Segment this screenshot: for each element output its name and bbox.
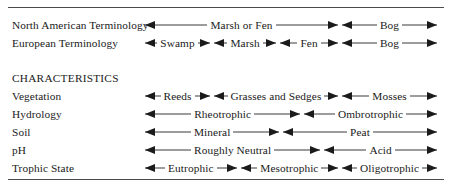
segment-caption: Roughly Neutral (191, 141, 274, 159)
arrow-left-icon (145, 92, 155, 100)
gradient-segment-acid: Acid (324, 141, 437, 159)
gradient-segment-bog: Bog (342, 34, 437, 52)
gradient-segment-mineral: Mineral (145, 123, 279, 141)
segment-caption: Bog (377, 16, 402, 34)
segment-caption: Peat (347, 123, 373, 141)
table-row: Vegetation ReedsGrasses and SedgesMosses (0, 87, 452, 105)
section-heading-characteristics: CHARACTERISTICS (12, 69, 119, 87)
bottom-rule (8, 179, 444, 180)
arrow-right-icon (328, 92, 338, 100)
gradient-segment-bog: Bog (342, 16, 437, 34)
arrow-right-icon (427, 39, 437, 47)
arrow-right-icon (269, 128, 279, 136)
gradient-track-trophic-state: EutrophicMesotrophicOligotrophic (145, 159, 437, 177)
table-row: Soil MineralPeat (0, 123, 452, 141)
arrow-right-icon (328, 164, 338, 172)
gradient-track-ph: Roughly NeutralAcid (145, 141, 437, 159)
segment-caption: Eutrophic (165, 159, 216, 177)
arrow-right-icon (427, 110, 437, 118)
arrow-left-icon (304, 110, 314, 118)
gradient-segment-ombrotrophic: Ombrotrophic (304, 105, 437, 123)
row-label-trophic-state: Trophic State (12, 159, 74, 177)
row-label-soil: Soil (12, 123, 31, 141)
segment-caption: Mesotrophic (257, 159, 321, 177)
segment-caption: Acid (366, 141, 394, 159)
arrow-right-icon (200, 39, 210, 47)
arrow-right-icon (427, 164, 437, 172)
row-label-vegetation: Vegetation (12, 87, 61, 105)
arrow-left-icon (145, 39, 155, 47)
segment-caption: Marsh (227, 34, 262, 52)
arrow-right-icon (427, 21, 437, 29)
table-row: pH Roughly NeutralAcid (0, 141, 452, 159)
arrow-left-icon (214, 92, 224, 100)
segment-caption: Oligotrophic (357, 159, 422, 177)
gradient-segment-reeds: Reeds (145, 87, 210, 105)
arrow-left-icon (280, 39, 290, 47)
arrow-right-icon (328, 39, 338, 47)
gradient-segment-eutrophic: Eutrophic (145, 159, 237, 177)
gradient-segment-marsh-or-fen: Marsh or Fen (145, 16, 338, 34)
arrow-right-icon (427, 146, 437, 154)
row-label-ph: pH (12, 141, 26, 159)
arrow-left-icon (214, 39, 224, 47)
gradient-track-north-american-terminology: Marsh or FenBog (145, 16, 437, 34)
wetland-gradient-figure: North American Terminology Marsh or FenB… (0, 0, 452, 189)
gradient-segment-peat: Peat (283, 123, 437, 141)
arrow-left-icon (145, 164, 155, 172)
table-row: Hydrology RheotrophicOmbrotrophic (0, 105, 452, 123)
row-label-hydrology: Hydrology (12, 105, 62, 123)
gradient-segment-roughly-neutral: Roughly Neutral (145, 141, 320, 159)
arrow-left-icon (342, 92, 352, 100)
segment-caption: Ombrotrophic (335, 105, 406, 123)
segment-caption: Mosses (369, 87, 410, 105)
arrow-left-icon (145, 146, 155, 154)
segment-caption: Swamp (157, 34, 197, 52)
segment-caption: Mineral (191, 123, 233, 141)
arrow-right-icon (427, 128, 437, 136)
segment-caption: Grasses and Sedges (228, 87, 325, 105)
gradient-segment-swamp: Swamp (145, 34, 210, 52)
gradient-track-vegetation: ReedsGrasses and SedgesMosses (145, 87, 437, 105)
segment-caption: Reeds (161, 87, 195, 105)
arrow-left-icon (324, 146, 334, 154)
row-label-north-american-terminology: North American Terminology (12, 16, 149, 34)
arrow-right-icon (200, 92, 210, 100)
arrow-left-icon (145, 21, 155, 29)
row-label-european-terminology: European Terminology (12, 34, 118, 52)
arrow-right-icon (427, 92, 437, 100)
arrow-right-icon (310, 146, 320, 154)
gradient-segment-marsh: Marsh (214, 34, 276, 52)
arrow-left-icon (342, 164, 352, 172)
gradient-segment-mesotrophic: Mesotrophic (241, 159, 338, 177)
top-rule (8, 7, 444, 8)
arrow-left-icon (145, 110, 155, 118)
table-row: Trophic State EutrophicMesotrophicOligot… (0, 159, 452, 177)
arrow-right-icon (266, 39, 276, 47)
gradient-segment-rheotrophic: Rheotrophic (145, 105, 300, 123)
arrow-left-icon (241, 164, 251, 172)
gradient-segment-oligotrophic: Oligotrophic (342, 159, 437, 177)
segment-caption: Bog (377, 34, 402, 52)
arrow-left-icon (145, 128, 155, 136)
arrow-left-icon (342, 39, 352, 47)
arrow-left-icon (283, 128, 293, 136)
table-row: North American Terminology Marsh or FenB… (0, 16, 452, 34)
gradient-track-hydrology: RheotrophicOmbrotrophic (145, 105, 437, 123)
table-row: European Terminology SwampMarshFenBog (0, 34, 452, 52)
gradient-track-soil: MineralPeat (145, 123, 437, 141)
segment-caption: Fen (297, 34, 320, 52)
gradient-segment-fen: Fen (280, 34, 338, 52)
segment-caption: Marsh or Fen (207, 16, 275, 34)
gradient-segment-grasses-and-sedges: Grasses and Sedges (214, 87, 338, 105)
gradient-track-european-terminology: SwampMarshFenBog (145, 34, 437, 52)
arrow-left-icon (342, 21, 352, 29)
segment-caption: Rheotrophic (191, 105, 254, 123)
arrow-right-icon (290, 110, 300, 118)
gradient-segment-mosses: Mosses (342, 87, 437, 105)
arrow-right-icon (227, 164, 237, 172)
arrow-right-icon (328, 21, 338, 29)
